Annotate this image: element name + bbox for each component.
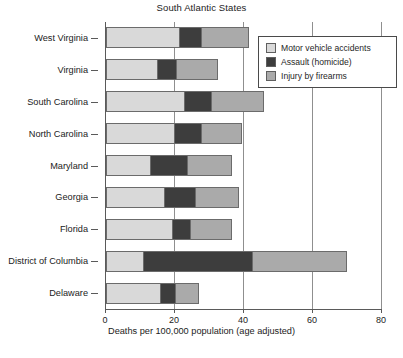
y-tick-mark-2 [91, 102, 98, 103]
y-axis-label-north-carolina: North Carolina [29, 129, 88, 139]
y-tick-mark-5 [91, 197, 98, 198]
y-axis-label-georgia: Georgia [55, 192, 88, 202]
y-axis-label-florida: Florida [60, 224, 88, 234]
bar-segment-motor-vehicle-accidents [106, 59, 158, 80]
y-tick-mark-7 [91, 261, 98, 262]
bar-segment-injury-by-firearms [176, 59, 217, 80]
bar-row [106, 219, 232, 240]
bar-segment-injury-by-firearms [211, 91, 264, 112]
legend-label: Motor vehicle accidents [281, 43, 371, 53]
y-axis-label-south-carolina: South Carolina [27, 97, 88, 107]
legend-swatch-motor-vehicle [266, 43, 276, 53]
y-axis-label-district-of-columbia: District of Columbia [8, 256, 88, 266]
bar-row [106, 123, 242, 144]
y-axis-label-delaware: Delaware [49, 288, 88, 298]
bar-row [106, 187, 239, 208]
legend-label: Injury by firearms [281, 71, 347, 81]
bar-segment-injury-by-firearms [195, 187, 238, 208]
bar-segment-assault-homicide- [174, 123, 202, 144]
bar-segment-injury-by-firearms [190, 219, 231, 240]
y-tick-mark-8 [91, 293, 98, 294]
x-tick-label-60: 60 [307, 315, 317, 325]
chart-figure: South Atlantic States West VirginiaVirgi… [0, 0, 403, 358]
x-tick-mark-60 [312, 309, 313, 313]
bar-segment-assault-homicide- [150, 155, 188, 176]
bar-row [106, 283, 199, 304]
bar-segment-motor-vehicle-accidents [106, 283, 161, 304]
legend-swatch-assault [266, 57, 276, 67]
bar-segment-motor-vehicle-accidents [106, 27, 180, 48]
y-axis-category-labels: West VirginiaVirginiaSouth CarolinaNorth… [0, 22, 98, 309]
bar-segment-motor-vehicle-accidents [106, 155, 151, 176]
bar-segment-assault-homicide- [160, 283, 176, 304]
bar-segment-motor-vehicle-accidents [106, 187, 165, 208]
chart-legend: Motor vehicle accidentsAssault (homicide… [258, 36, 397, 88]
y-tick-mark-6 [91, 229, 98, 230]
legend-entry-motor-vehicle-accidents: Motor vehicle accidents [266, 42, 390, 54]
y-tick-mark-3 [91, 134, 98, 135]
bar-segment-assault-homicide- [179, 27, 201, 48]
bar-segment-assault-homicide- [184, 91, 212, 112]
x-tick-mark-20 [174, 309, 175, 313]
bar-segment-assault-homicide- [143, 251, 253, 272]
y-tick-mark-0 [91, 38, 98, 39]
bar-segment-assault-homicide- [157, 59, 178, 80]
legend-entry-injury-by-firearms: Injury by firearms [266, 70, 390, 82]
x-tick-label-40: 40 [238, 315, 248, 325]
x-tick-mark-40 [243, 309, 244, 313]
y-axis-label-west-virginia: West Virginia [34, 33, 88, 43]
bar-segment-assault-homicide- [164, 187, 197, 208]
legend-swatch-firearms [266, 71, 276, 81]
legend-label: Assault (homicide) [281, 57, 352, 67]
bar-segment-motor-vehicle-accidents [106, 123, 175, 144]
bar-row [106, 59, 218, 80]
legend-entry-assault-homicide-: Assault (homicide) [266, 56, 390, 68]
bar-row [106, 155, 232, 176]
y-axis-label-virginia: Virginia [58, 65, 88, 75]
bar-segment-motor-vehicle-accidents [106, 219, 173, 240]
bar-row [106, 251, 347, 272]
bar-segment-injury-by-firearms [201, 123, 242, 144]
bar-segment-assault-homicide- [172, 219, 191, 240]
y-tick-mark-1 [91, 70, 98, 71]
x-tick-mark-0 [105, 309, 106, 313]
x-tick-label-0: 0 [102, 315, 107, 325]
x-tick-mark-80 [381, 309, 382, 313]
chart-title: South Atlantic States [0, 2, 403, 13]
x-axis-title: Deaths per 100,000 population (age adjus… [0, 326, 403, 336]
bar-segment-motor-vehicle-accidents [106, 251, 144, 272]
bar-segment-injury-by-firearms [201, 27, 249, 48]
bar-segment-injury-by-firearms [187, 155, 232, 176]
bar-row [106, 91, 264, 112]
x-tick-label-80: 80 [376, 315, 386, 325]
y-axis-label-maryland: Maryland [50, 161, 88, 171]
bar-segment-motor-vehicle-accidents [106, 91, 185, 112]
y-tick-mark-4 [91, 166, 98, 167]
x-tick-label-20: 20 [169, 315, 179, 325]
bar-segment-injury-by-firearms [252, 251, 347, 272]
bar-row [106, 27, 249, 48]
bar-segment-injury-by-firearms [175, 283, 199, 304]
